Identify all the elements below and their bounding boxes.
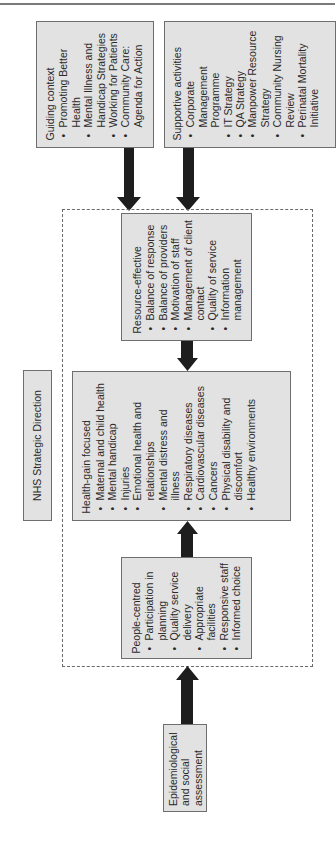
list-item: •QA Strategy <box>234 28 246 141</box>
bullet-icon: • <box>193 506 206 510</box>
list-item: •Community Nursing Review <box>271 28 296 141</box>
bullet-icon: • <box>218 326 230 330</box>
epidemiological-assessment-content: Epidemiological and social assessment <box>163 724 207 812</box>
list-item: •Management of client contact <box>181 219 206 333</box>
guiding-context-list: •Promoting Better Health •Mental Illness… <box>56 27 143 140</box>
people-centred-list: •Participation in planning •Quality serv… <box>142 561 241 653</box>
arrow-up-icon <box>176 666 199 724</box>
bullet-icon: • <box>296 134 308 138</box>
health-gain-focused-content: Health-gain focused •Maternal and child … <box>72 371 291 521</box>
list-item: •Mental handicap <box>105 377 118 513</box>
bullet-icon: • <box>181 326 193 330</box>
guiding-context-heading: Guiding context <box>43 27 55 140</box>
bullet-icon: • <box>192 646 204 650</box>
list-item: •Informed choice <box>229 561 241 653</box>
list-item: •Manpower Resource Strategy <box>246 28 271 141</box>
bullet-icon: • <box>143 326 155 330</box>
bullet-icon: • <box>118 133 130 137</box>
list-item: •Community Care: Agenda for Action <box>118 27 143 140</box>
list-item: •Cancers <box>206 377 219 513</box>
list-item: •Information management <box>218 219 243 333</box>
bullet-icon: • <box>234 134 246 138</box>
list-item: •IT Strategy <box>221 28 233 141</box>
list-item: •Cardiovascular diseases <box>193 377 206 513</box>
bullet-icon: • <box>105 506 118 510</box>
bullet-icon: • <box>81 133 93 137</box>
supportive-activities-content: Supportive activities •Corporate Managem… <box>164 22 336 149</box>
diagram-title: NHS Strategic Direction <box>31 390 43 501</box>
resource-effective-content: Resource-effective •Balance of response … <box>121 213 252 341</box>
arrow-down-icon <box>177 341 198 371</box>
people-centred-content: People-centred •Participation in plannin… <box>121 557 252 659</box>
bullet-icon: • <box>221 134 233 138</box>
list-item: •Healthy environments <box>244 377 257 513</box>
arrow-up-icon <box>177 521 198 557</box>
list-item: •Balance of providers <box>156 219 168 333</box>
arrow-down-icon <box>117 148 141 211</box>
list-item: •Respiratory diseases <box>181 377 194 513</box>
list-item: •Quality service delivery <box>167 561 192 653</box>
bullet-icon: • <box>229 646 241 650</box>
guiding-context-content: Guiding context •Promoting Better Health… <box>36 21 154 148</box>
nhs-strategic-direction-content: NHS Strategic Direction <box>23 370 52 521</box>
people-centred-heading: People-centred <box>129 561 141 653</box>
bullet-icon: • <box>156 506 169 510</box>
bullet-icon: • <box>168 326 180 330</box>
health-gain-focused-list: •Maternal and child health •Mental handi… <box>93 377 257 513</box>
list-item: •Perinatal Mortality Initiative <box>296 28 321 141</box>
bullet-icon: • <box>56 133 68 137</box>
bullet-icon: • <box>271 134 283 138</box>
list-item: •Emotional health and relationships <box>130 377 155 513</box>
epidemiological-assessment-label: Epidemiological and social assessment <box>167 732 204 806</box>
supportive-activities-list: •Corporate Management Programme •IT Stra… <box>184 28 320 141</box>
bullet-icon: • <box>246 134 258 138</box>
health-gain-focused-heading: Health-gain focused <box>79 377 92 513</box>
bullet-icon: • <box>244 506 257 510</box>
bullet-icon: • <box>219 506 232 510</box>
list-item: •Injuries <box>118 377 131 513</box>
list-item: •Participation in planning <box>142 561 167 653</box>
list-item: •Promoting Better Health <box>56 27 81 140</box>
bullet-icon: • <box>184 134 196 138</box>
resource-effective-list: •Balance of response •Balance of provide… <box>143 219 242 333</box>
bullet-icon: • <box>156 326 168 330</box>
bullet-icon: • <box>217 646 229 650</box>
list-item: •Maternal and child health <box>93 377 106 513</box>
list-item: •Physical disability and discomfort <box>219 377 244 513</box>
bullet-icon: • <box>93 506 106 510</box>
supportive-activities-heading: Supportive activities <box>171 28 183 141</box>
list-item: •Working for Patients <box>106 27 118 140</box>
list-item: •Quality of service <box>205 219 217 333</box>
bullet-icon: • <box>142 646 154 650</box>
arrow-down-icon <box>176 148 200 211</box>
list-item: •Corporate Management Programme <box>184 28 221 141</box>
top-rule <box>0 3 335 5</box>
resource-effective-heading: Resource-effective <box>130 219 142 333</box>
list-item: •Appropriate facilities <box>192 561 217 653</box>
list-item: •Mental distress and illness <box>156 377 181 513</box>
bullet-icon: • <box>181 506 194 510</box>
bullet-icon: • <box>206 506 219 510</box>
list-item: •Mental Illness and Handicap Strategies <box>81 27 106 140</box>
bullet-icon: • <box>167 646 179 650</box>
bullet-icon: • <box>130 506 143 510</box>
bullet-icon: • <box>205 326 217 330</box>
bullet-icon: • <box>118 506 131 510</box>
list-item: •Responsive staff <box>217 561 229 653</box>
list-item: •Motivation of staff <box>168 219 180 333</box>
list-item: •Balance of response <box>143 219 155 333</box>
bullet-icon: • <box>106 133 118 137</box>
